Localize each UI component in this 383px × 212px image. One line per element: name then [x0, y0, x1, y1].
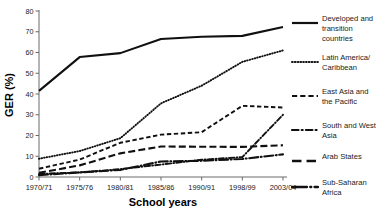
legend-label-0: Developed and transition countries	[322, 14, 373, 45]
legend-label-5: Sub-Saharan Africa	[322, 178, 367, 198]
y-tick-group: 01020304050607080	[26, 7, 40, 182]
x-axis-title: School years	[129, 196, 197, 208]
legend-item-0[interactable]: Developed and transition countries	[291, 14, 373, 45]
y-tick-label: 60	[26, 48, 34, 57]
x-tick-label: 1980/81	[107, 183, 134, 192]
series-line-0	[39, 27, 283, 91]
y-tick-label: 70	[26, 27, 34, 36]
x-tick-label: 1975/76	[66, 183, 93, 192]
y-tick-label: 50	[26, 69, 34, 78]
chart-container: 01020304050607080 1970/711975/761980/811…	[0, 0, 383, 212]
legend-label-4: Arab States	[322, 152, 362, 162]
x-tick-group: 1970/711975/761980/811985/861990/911998/…	[26, 177, 297, 192]
y-tick-label: 40	[26, 90, 34, 99]
legend-item-4[interactable]: Arab States	[291, 152, 362, 165]
legend-label-2: East Asia and the Pacific	[322, 87, 368, 107]
legend-label-3: South and West Asia	[322, 121, 376, 141]
x-tick-label: 1998/99	[229, 183, 256, 192]
y-tick-label: 80	[26, 7, 34, 16]
legend-item-2[interactable]: East Asia and the Pacific	[291, 87, 368, 107]
legend-swatch-longdash-icon	[291, 153, 319, 165]
y-tick-label: 0	[30, 173, 34, 182]
y-tick-label: 10	[26, 152, 34, 161]
x-tick-label: 1990/91	[188, 183, 215, 192]
series-line-1	[39, 50, 283, 158]
legend-swatch-solid-icon	[291, 15, 319, 27]
series-group	[39, 27, 283, 175]
y-tick-label: 30	[26, 110, 34, 119]
legend-swatch-dashdot-icon	[291, 122, 319, 134]
legend-item-3[interactable]: South and West Asia	[291, 121, 376, 141]
x-tick-label: 1970/71	[26, 183, 53, 192]
x-tick-label: 1985/86	[148, 183, 175, 192]
legend-item-1[interactable]: Latin America/ Caribbean	[291, 53, 370, 73]
y-tick-label: 20	[26, 131, 34, 140]
legend-swatch-dotted-icon	[291, 54, 319, 66]
legend-swatch-dashed-icon	[291, 88, 319, 100]
series-line-3	[39, 115, 283, 174]
legend-label-1: Latin America/ Caribbean	[322, 53, 370, 73]
legend-swatch-longdashdot-icon	[291, 179, 319, 191]
legend-item-5[interactable]: Sub-Saharan Africa	[291, 178, 367, 198]
y-axis-title: GER (%)	[3, 73, 15, 117]
